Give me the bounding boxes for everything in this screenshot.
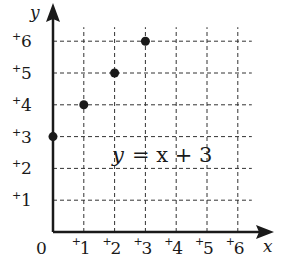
y-tick-label: +5 [12, 62, 32, 83]
svg-text:+: + [12, 157, 21, 170]
data-points [49, 37, 150, 141]
svg-text:+: + [12, 189, 21, 202]
svg-text:5: 5 [203, 238, 214, 258]
svg-text:+: + [12, 94, 21, 107]
data-point [141, 37, 150, 46]
equation-rest: = x + 3 [132, 143, 212, 167]
svg-text:+: + [12, 30, 21, 43]
svg-text:1: 1 [21, 190, 32, 210]
svg-text:5: 5 [21, 63, 32, 83]
svg-text:2: 2 [21, 158, 32, 178]
data-point [110, 69, 119, 78]
x-tick-label: +5 [195, 235, 214, 258]
equation-y: y [111, 143, 125, 167]
y-tick-label: +1 [12, 189, 32, 210]
svg-text:4: 4 [21, 95, 32, 115]
x-tick-label: +1 [72, 235, 91, 258]
svg-text:3: 3 [141, 238, 152, 258]
svg-text:3: 3 [21, 127, 32, 147]
x-tick-label: +2 [103, 235, 122, 258]
x-tick-label: +3 [133, 235, 152, 258]
svg-text:1: 1 [80, 238, 91, 258]
y-tick-label: +6 [12, 30, 32, 51]
x-tick-label: +4 [164, 235, 183, 258]
axes [46, 3, 274, 239]
svg-text:+: + [12, 126, 21, 139]
y-tick-label: +3 [12, 126, 32, 147]
svg-text:6: 6 [234, 238, 245, 258]
data-point [79, 100, 88, 109]
x-tick-label: +6 [226, 235, 245, 258]
y-tick-label: +2 [12, 157, 32, 178]
svg-text:4: 4 [172, 238, 183, 258]
svg-text:2: 2 [111, 238, 122, 258]
origin-label: 0 [36, 238, 47, 258]
y-tick-label: +4 [12, 94, 32, 115]
svg-text:6: 6 [21, 31, 32, 51]
svg-text:+: + [12, 62, 21, 75]
data-point [49, 132, 58, 141]
grid-lines [53, 27, 252, 232]
equation-annotation: y = x + 3 [111, 143, 212, 167]
x-axis-label: x [263, 236, 273, 256]
coordinate-plane-chart: +1+2+3+4+5+6+1+2+3+4+5+6 y x 0 y = x + 3 [0, 0, 292, 273]
y-axis-label: y [29, 2, 40, 22]
